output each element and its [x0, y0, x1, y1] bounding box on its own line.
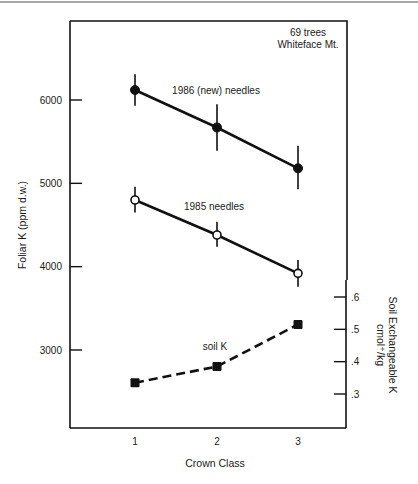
data-point-open-circle	[131, 196, 139, 204]
y-axis-title: Foliar K (ppm d.w.)	[16, 181, 28, 269]
right-tick-label: .4	[351, 356, 360, 367]
series-line	[135, 324, 298, 382]
annotation-line-1: 69 trees	[290, 27, 326, 38]
left-axis-ticks: 3000400050006000	[40, 95, 82, 356]
data-point-filled-circle	[213, 123, 222, 132]
x-tick-label: 1	[132, 436, 138, 447]
x-axis-tick-labels: 123	[132, 436, 301, 447]
right-tick-label: .5	[351, 324, 360, 335]
data-point-filled-circle	[294, 164, 303, 173]
plot-frame-top	[70, 21, 347, 280]
x-tick-label: 2	[214, 436, 220, 447]
series-label-1985: 1985 needles	[184, 201, 244, 212]
data-point-open-circle	[294, 269, 302, 277]
series-label-soil-k: soil K	[203, 341, 228, 352]
left-tick-label: 6000	[40, 95, 63, 106]
data-point-filled-circle	[131, 86, 140, 95]
left-tick-label: 5000	[40, 178, 63, 189]
series-soil-k	[131, 320, 303, 387]
data-point-filled-square	[131, 378, 140, 387]
right-tick-label: .6	[351, 292, 360, 303]
right-tick-label: .3	[351, 389, 360, 400]
y2-axis-title-line-2: cmol⁺/kg	[375, 324, 387, 366]
series-label-1986: 1986 (new) needles	[172, 85, 260, 96]
x-tick-label: 3	[295, 436, 301, 447]
data-point-filled-square	[294, 320, 303, 329]
y2-axis-title-line-1: Soil Exchangeable K	[387, 297, 399, 394]
left-tick-label: 3000	[40, 345, 63, 356]
x-axis-title: Crown Class	[185, 457, 245, 469]
chart-svg: 3000400050006000 .3.4.5.6 123 69 trees W…	[0, 0, 418, 484]
annotation-line-2: Whiteface Mt.	[277, 39, 338, 50]
data-point-open-circle	[213, 231, 221, 239]
data-point-filled-square	[213, 362, 222, 371]
right-axis-ticks: .3.4.5.6	[334, 292, 360, 400]
left-tick-label: 4000	[40, 261, 63, 272]
